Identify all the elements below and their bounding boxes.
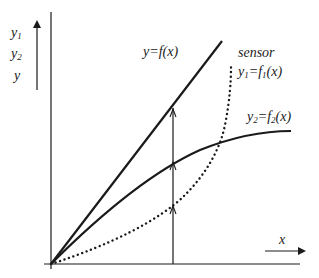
- sensor-y1-dotted-curve: [51, 67, 231, 264]
- y1-axis-label: y1: [11, 26, 22, 41]
- y2-curve: [51, 131, 291, 264]
- y-axis-label: y: [14, 69, 20, 83]
- y2-curve-label: y2=f2(x): [247, 110, 291, 125]
- sensor-y1-label: y1=f1(x): [238, 65, 282, 80]
- sensor-characteristic-diagram: [0, 0, 319, 278]
- ideal-line-label: y=f(x): [143, 45, 178, 59]
- x-axis-label: x: [279, 233, 285, 247]
- sensor-title-label: sensor: [238, 46, 275, 60]
- y2-axis-label: y2: [11, 47, 22, 62]
